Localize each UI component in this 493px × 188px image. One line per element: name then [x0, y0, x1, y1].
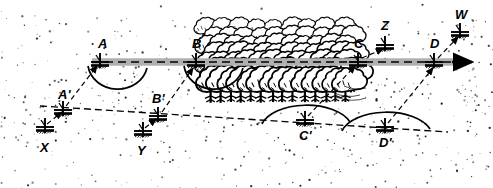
arc-at-A: [88, 66, 147, 89]
station-label-Z: Z: [380, 18, 390, 33]
station-marker-W: W: [451, 7, 469, 39]
station-marker-X: X: [36, 118, 54, 155]
station-marker-Dprime: D': [376, 118, 394, 150]
station-label-A: A: [97, 36, 107, 51]
station-marker-Z: Z: [376, 18, 394, 52]
stake-icon: [376, 118, 394, 134]
station-label-Bprime: B': [152, 91, 165, 106]
stake-icon: [54, 101, 72, 117]
stake-icon: [451, 23, 469, 39]
station-label-W: W: [455, 7, 469, 22]
sight-Dprime-to-D: [388, 68, 433, 123]
station-label-Aprime: A': [57, 87, 71, 102]
stake-icon: [134, 122, 152, 138]
sight-Aprime-to-A: [66, 66, 97, 106]
station-label-B: B: [192, 36, 201, 51]
stake-icon: [36, 118, 54, 134]
station-label-D: D: [430, 36, 440, 51]
station-label-C: C: [354, 36, 364, 51]
station-label-Y: Y: [137, 143, 147, 158]
stake-icon: [376, 36, 394, 52]
stake-icon: [296, 111, 314, 127]
station-label-Cprime: C': [299, 128, 312, 143]
station-marker-Bprime: B': [149, 91, 167, 123]
sight-D-to-W: [438, 37, 458, 58]
station-marker-Aprime: A': [54, 87, 72, 117]
offset-traverse-line: [40, 106, 448, 132]
station-label-X: X: [39, 140, 50, 155]
station-label-Dprime: D': [379, 135, 392, 150]
diagram-canvas: ABCDA'B'C'D'XYZW: [0, 0, 493, 188]
survey-traverse-diagram: ABCDA'B'C'D'XYZW: [0, 0, 493, 188]
